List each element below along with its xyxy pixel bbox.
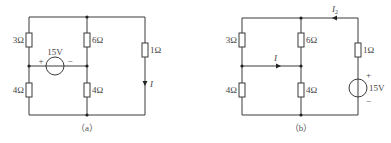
node-dot: [240, 64, 243, 67]
circuit-a: 3Ω 4Ω 6Ω 4Ω 1Ω 15V + − I （a）: [13, 15, 162, 133]
label-source-plus: +: [38, 56, 43, 66]
circuit-a-resistor-6ohm: [84, 33, 90, 47]
label-1ohm: 1Ω: [150, 45, 162, 55]
label-current-i: I: [273, 53, 278, 63]
circuit-b-resistor-6ohm: [298, 33, 304, 47]
circuit-a-current-arrow-down-icon: [143, 81, 148, 86]
label-6ohm: 6Ω: [92, 35, 104, 45]
node-dot: [299, 64, 302, 67]
label-4ohm-left: 4Ω: [13, 85, 25, 95]
label-1ohm: 1Ω: [363, 45, 375, 55]
circuit-b-current2-arrow-left-icon: [332, 16, 337, 21]
node-dot: [85, 113, 88, 116]
node-dot: [299, 113, 302, 116]
label-source-voltage: 15V: [369, 83, 385, 93]
label-3ohm: 3Ω: [226, 35, 238, 45]
label-current-i: I: [149, 79, 154, 89]
circuit-diagrams: 3Ω 4Ω 6Ω 4Ω 1Ω 15V + − I （a） 3Ω: [0, 0, 391, 143]
label-4ohm-left: 4Ω: [226, 85, 238, 95]
circuit-a-resistor-1ohm: [142, 43, 148, 57]
node-dot: [27, 64, 30, 67]
caption-b: （b）: [290, 123, 313, 133]
label-source-plus: +: [366, 70, 371, 80]
label-4ohm-mid: 4Ω: [92, 85, 104, 95]
circuit-b: 3Ω 4Ω 6Ω 4Ω 1Ω 15V + − I I2 （b）: [226, 4, 385, 133]
circuit-a-resistor-4ohm-mid: [84, 83, 90, 97]
label-source-minus: −: [366, 96, 371, 106]
circuit-b-resistor-1ohm: [355, 43, 361, 57]
node-dot: [299, 16, 302, 19]
node-dot: [85, 15, 88, 18]
label-source-voltage: 15V: [47, 47, 63, 57]
label-6ohm: 6Ω: [306, 35, 318, 45]
circuit-b-current-arrow-right-icon: [276, 64, 281, 69]
label-4ohm-mid: 4Ω: [306, 85, 318, 95]
circuit-a-resistor-4ohm-left: [26, 83, 32, 97]
circuit-b-resistor-4ohm-mid: [298, 83, 304, 97]
circuit-a-resistor-3ohm: [26, 33, 32, 47]
label-3ohm: 3Ω: [13, 35, 25, 45]
circuit-b-resistor-4ohm-left: [239, 83, 245, 97]
label-current-i2: I2: [331, 4, 338, 15]
caption-a: （a）: [76, 123, 98, 133]
node-dot: [85, 64, 88, 67]
label-source-minus: −: [67, 56, 72, 66]
circuit-b-resistor-3ohm: [239, 33, 245, 47]
